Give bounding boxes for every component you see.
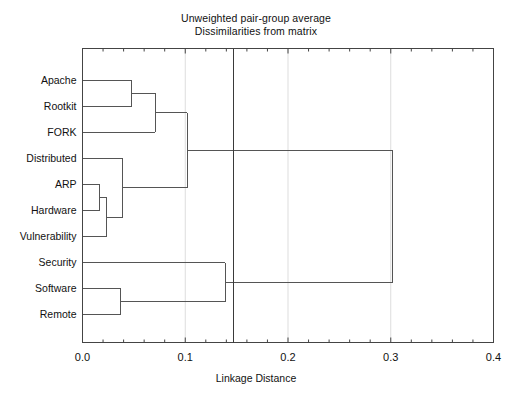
- dendrogram-link-m7: [83, 289, 121, 315]
- x-tick-label-0.3: 0.3: [383, 351, 398, 363]
- dendrogram-link-m5: [83, 158, 123, 217]
- chart-title-line-1: Unweighted pair-group average: [0, 12, 512, 25]
- dendrogram-link-m3: [83, 184, 100, 210]
- x-tick-label-0.0: 0.0: [75, 351, 90, 363]
- leaf-label-security: Security: [39, 256, 78, 268]
- leaf-label-vulnerability: Vulnerability: [20, 230, 78, 242]
- x-tick-label-0.2: 0.2: [280, 351, 295, 363]
- dendrogram-plot: 0.00.10.20.30.4ApacheRootkitFORKDistribu…: [0, 0, 512, 396]
- dendrogram-link-m2: [83, 93, 156, 132]
- chart-title: Unweighted pair-group average Dissimilar…: [0, 12, 512, 38]
- leaf-label-fork: FORK: [47, 126, 76, 138]
- chart-title-line-2: Dissimilarities from matrix: [0, 25, 512, 38]
- leaf-label-arp: ARP: [55, 178, 77, 190]
- leaf-label-software: Software: [35, 282, 77, 294]
- x-tick-label-0.1: 0.1: [178, 351, 193, 363]
- leaf-label-hardware: Hardware: [31, 204, 77, 216]
- dendrogram-link-m6: [123, 113, 188, 188]
- leaf-label-distributed: Distributed: [26, 152, 76, 164]
- dendrogram-link-m1: [83, 80, 132, 106]
- leaf-label-rootkit: Rootkit: [44, 100, 77, 112]
- dendrogram-link-m8: [83, 263, 226, 302]
- leaf-label-apache: Apache: [41, 74, 77, 86]
- x-axis-label: Linkage Distance: [0, 372, 512, 384]
- dendrogram-link-m4: [83, 197, 107, 236]
- dendrogram-figure: Unweighted pair-group average Dissimilar…: [0, 0, 512, 396]
- leaf-label-remote: Remote: [40, 308, 77, 320]
- x-tick-label-0.4: 0.4: [486, 351, 501, 363]
